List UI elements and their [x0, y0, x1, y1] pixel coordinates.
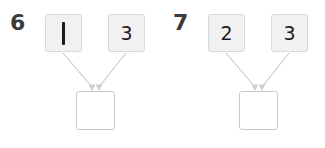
problem-number-label: 6: [10, 12, 25, 34]
arrow-left-to-sum-head: [89, 84, 96, 91]
arrow-right-to-sum-line: [99, 53, 126, 87]
arrow-right-to-sum-line: [262, 53, 289, 87]
arrow-left-to-sum-line: [226, 53, 255, 87]
worksheet-canvas: 6 3 7 2 3: [0, 0, 325, 148]
problem-7: 7 2 3: [163, 0, 325, 148]
arrow-right-to-sum-head: [259, 84, 266, 91]
addend-right-box[interactable]: 3: [271, 14, 308, 52]
problem-6: 6 3: [0, 0, 162, 148]
arrow-left-to-sum-head: [252, 84, 259, 91]
problem-number-label: 7: [173, 12, 188, 34]
arrow-right-to-sum-head: [96, 84, 103, 91]
digit-one-stroke-glyph: [62, 22, 65, 45]
addend-right-box[interactable]: 3: [108, 14, 145, 52]
sum-answer-box[interactable]: [239, 91, 278, 130]
addend-left-box[interactable]: 2: [208, 14, 245, 52]
sum-answer-box[interactable]: [76, 91, 115, 130]
addend-left-box[interactable]: [45, 14, 82, 52]
arrow-left-to-sum-line: [63, 53, 92, 87]
